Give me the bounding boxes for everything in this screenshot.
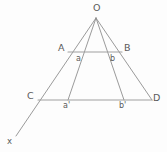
point-label-O: O — [93, 3, 100, 13]
point-label-C: C — [27, 91, 34, 101]
geometry-figure: O A B C D a b a' b' x — [0, 0, 167, 152]
point-label-b-prime: b' — [119, 102, 126, 110]
point-label-D: D — [153, 93, 160, 103]
ray-O-B-D — [96, 18, 152, 100]
point-label-a: a — [76, 55, 81, 63]
point-label-A: A — [58, 43, 65, 53]
diagram-canvas — [0, 0, 167, 152]
point-label-b: b — [110, 55, 115, 63]
ray-O-a-aprime — [68, 18, 96, 100]
point-label-B: B — [124, 43, 131, 53]
ray-O-A-C-x — [16, 18, 96, 136]
point-label-a-prime: a' — [63, 102, 70, 110]
axis-label-x: x — [7, 137, 12, 146]
